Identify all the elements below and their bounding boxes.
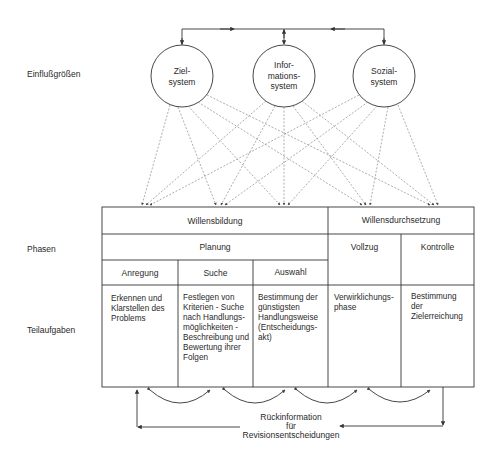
informationssystem-label: Infor- mations- system (253, 60, 315, 92)
phase-planung: Planung (102, 242, 328, 252)
label-teilaufgaben: Teilaufgaben (27, 325, 75, 335)
task-kontrolle: Bestimmung der Zielerreichung (411, 292, 463, 322)
task-suche: Festlegen von Kriterien - Suche nach Han… (183, 293, 249, 363)
step-auswahl: Auswahl (253, 267, 328, 277)
header-willensbildung: Willensbildung (102, 216, 328, 226)
sozialsystem-label: Sozial- system (353, 66, 415, 87)
label-phasen: Phasen (27, 244, 56, 254)
header-willensdurchsetzung: Willensdurchsetzung (328, 215, 474, 225)
phase-vollzug: Vollzug (328, 242, 401, 252)
task-anregung: Erkennen und Klarstellen des Problems (111, 294, 165, 324)
influence-lines (142, 95, 438, 205)
label-einflussgroessen: Einflußgrößen (27, 69, 80, 79)
step-suche: Suche (178, 268, 253, 278)
phase-kontrolle: Kontrolle (401, 242, 474, 252)
zielsystem-label: Ziel- system (151, 66, 213, 87)
transition-arcs (150, 390, 430, 403)
system-interconnect (182, 29, 384, 45)
task-vollzug: Verwirklichungs- phase (334, 293, 394, 313)
feedback-label: Rückinformation für Revisionsentscheidun… (211, 413, 371, 440)
task-auswahl: Bestimmung der günstigsten Handlungsweis… (258, 293, 318, 343)
step-anregung: Anregung (102, 268, 178, 278)
